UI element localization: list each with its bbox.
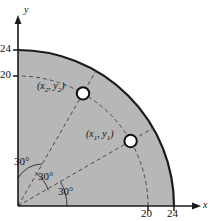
p2-close: ) xyxy=(61,80,64,91)
x-tick-label-24: 24 xyxy=(167,207,178,219)
angle-label-lower: 30° xyxy=(58,185,73,197)
marker-point-1[interactable] xyxy=(124,135,136,147)
point-1-label: (x1, y1) xyxy=(86,128,114,142)
marker-point-2[interactable] xyxy=(77,87,89,99)
figure-canvas xyxy=(0,0,212,221)
y-tick-label-24: 24 xyxy=(0,42,11,54)
x-tick-label-20: 20 xyxy=(141,207,152,219)
y-tick-label-20: 20 xyxy=(0,68,11,80)
point-2-label: (x2, y2) xyxy=(37,80,65,94)
y-axis-label: y xyxy=(24,4,28,15)
angle-label-middle: 30° xyxy=(38,170,53,182)
y-axis-arrowhead xyxy=(15,15,22,24)
p1-close: ) xyxy=(110,128,113,139)
x-axis-arrowhead xyxy=(192,203,201,210)
x-axis-label: x xyxy=(203,199,207,210)
angle-label-upper: 30° xyxy=(14,155,29,167)
polar-quadrant-figure: y x 24 20 20 24 30° 30° 30° (x2, y2) (x1… xyxy=(0,0,212,221)
